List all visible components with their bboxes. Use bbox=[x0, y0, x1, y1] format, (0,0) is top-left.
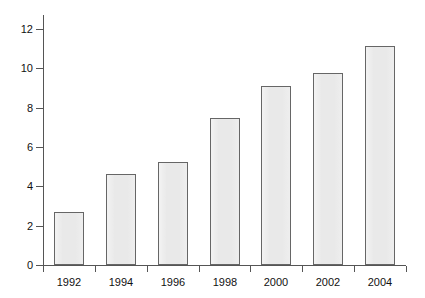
bar bbox=[261, 86, 291, 265]
x-axis-tick-label: 1992 bbox=[39, 277, 99, 288]
y-axis-line bbox=[43, 15, 44, 266]
y-axis-tick-label: 8 bbox=[0, 103, 33, 114]
y-axis-tick bbox=[36, 147, 44, 148]
bar bbox=[54, 212, 84, 265]
x-axis-tick-label: 1994 bbox=[91, 277, 151, 288]
y-axis-tick-label: 6 bbox=[0, 142, 33, 153]
y-axis-tick-label: 12 bbox=[0, 24, 33, 35]
y-axis-tick bbox=[36, 68, 44, 69]
x-axis-tick bbox=[406, 266, 407, 272]
bar bbox=[365, 46, 395, 265]
x-axis-tick bbox=[43, 266, 44, 272]
y-axis-tick bbox=[36, 186, 44, 187]
bar bbox=[210, 118, 240, 265]
bar bbox=[158, 162, 188, 265]
x-axis-tick-label: 2002 bbox=[298, 277, 358, 288]
y-axis-tick-label: 2 bbox=[0, 221, 33, 232]
y-axis-tick-label: 0 bbox=[0, 260, 33, 271]
x-axis-tick-label: 1996 bbox=[143, 277, 203, 288]
bar bbox=[313, 73, 343, 265]
x-axis-tick-label: 2004 bbox=[350, 277, 410, 288]
y-axis-tick-label: 10 bbox=[0, 63, 33, 74]
x-axis-tick bbox=[95, 266, 96, 272]
y-axis-tick bbox=[36, 108, 44, 109]
bar-chart: $ billion 024681012 19921994199619982000… bbox=[0, 0, 425, 298]
x-axis-tick bbox=[199, 266, 200, 272]
x-axis-tick bbox=[250, 266, 251, 272]
x-axis-line bbox=[43, 265, 406, 266]
x-axis-tick bbox=[147, 266, 148, 272]
bar bbox=[106, 174, 136, 265]
x-axis-tick bbox=[302, 266, 303, 272]
x-axis-tick bbox=[354, 266, 355, 272]
y-axis-tick bbox=[36, 29, 44, 30]
y-axis-tick bbox=[36, 226, 44, 227]
y-axis-tick-label: 4 bbox=[0, 181, 33, 192]
x-axis-tick-label: 2000 bbox=[246, 277, 306, 288]
